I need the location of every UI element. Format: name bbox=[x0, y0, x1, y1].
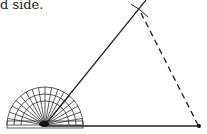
dashed-third-side bbox=[141, 13, 198, 125]
vertex-point bbox=[39, 121, 49, 127]
angle-ray bbox=[45, 0, 146, 125]
construction-diagram bbox=[0, 0, 207, 134]
endpoint-dot bbox=[197, 124, 201, 128]
